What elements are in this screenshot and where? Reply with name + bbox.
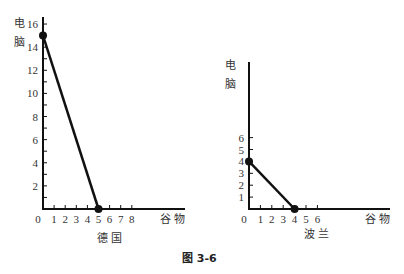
x-tick-label: 7 <box>118 213 124 225</box>
figure-caption: 图 3-6 <box>182 252 217 265</box>
ppf-line <box>43 36 99 209</box>
y-tick-label: 4 <box>239 155 245 167</box>
x-tick-label: 5 <box>96 213 102 225</box>
y-tick-label: 14 <box>27 41 39 53</box>
right-x-axis-label: 谷 物 <box>365 212 391 226</box>
figure-3-6: 246810121416012345678 电 脑 谷 物 德 国 123456… <box>0 0 404 274</box>
data-point-marker <box>245 157 253 165</box>
left-y-axis-label-1: 电 <box>14 17 25 30</box>
x-tick-label: 8 <box>129 213 135 225</box>
right-y-axis-label-1: 电 <box>225 59 236 72</box>
y-tick-label: 1 <box>239 191 245 203</box>
data-point-marker <box>291 205 299 213</box>
y-tick-label: 8 <box>33 111 39 123</box>
left-x-axis-label: 谷 物 <box>160 212 186 226</box>
y-tick-label: 6 <box>33 134 39 146</box>
ppf-line <box>249 161 295 209</box>
x-tick-label: 6 <box>107 213 113 225</box>
right-chart-title: 波 兰 <box>304 228 330 241</box>
x-tick-label: 2 <box>62 213 68 225</box>
poland-chart: 1234560123456 <box>239 62 391 225</box>
y-tick-label: 4 <box>33 157 39 169</box>
y-tick-label: 10 <box>27 87 39 99</box>
x-tick-label: 3 <box>280 213 286 225</box>
y-tick-label: 5 <box>239 144 245 156</box>
germany-chart: 246810121416012345678 <box>27 17 185 225</box>
x-tick-label: 6 <box>315 213 321 225</box>
x-tick-label: 1 <box>51 213 57 225</box>
right-y-axis-label-2: 脑 <box>225 78 236 91</box>
data-point-marker <box>39 32 47 40</box>
x-tick-label: 1 <box>258 213 264 225</box>
y-tick-label: 6 <box>239 132 245 144</box>
y-tick-label: 16 <box>27 18 39 30</box>
x-tick-label: 4 <box>292 213 298 225</box>
y-tick-label: 2 <box>33 180 39 192</box>
left-y-axis-label-2: 脑 <box>14 36 25 49</box>
x-tick-label: 0 <box>35 213 41 225</box>
y-tick-label: 2 <box>239 179 245 191</box>
x-tick-label: 0 <box>241 213 247 225</box>
left-chart-title: 德 国 <box>97 231 123 245</box>
x-tick-label: 4 <box>85 213 91 225</box>
x-tick-label: 5 <box>303 213 309 225</box>
y-tick-label: 3 <box>239 167 245 179</box>
y-tick-label: 12 <box>27 64 38 76</box>
x-tick-label: 2 <box>269 213 275 225</box>
data-point-marker <box>95 205 103 213</box>
x-tick-label: 3 <box>74 213 80 225</box>
